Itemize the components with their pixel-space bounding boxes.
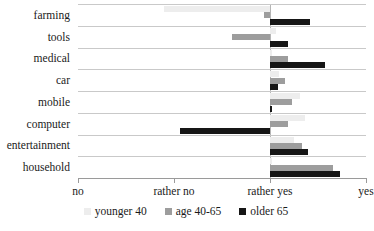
bar-household-younger-40 xyxy=(270,158,272,164)
older-swatch-icon xyxy=(239,208,246,215)
gridline xyxy=(78,113,366,114)
gridline xyxy=(78,48,366,49)
category-label-tools: tools xyxy=(48,31,70,43)
legend-label: younger 40 xyxy=(95,205,147,217)
bar-household-older-65 xyxy=(270,171,340,177)
gridline xyxy=(78,91,366,92)
x-tick-yes xyxy=(366,178,367,183)
legend-label: age 40-65 xyxy=(176,205,222,217)
x-tick-label-no: no xyxy=(72,185,84,198)
younger-swatch-icon xyxy=(84,208,91,215)
middle-swatch-icon xyxy=(165,208,172,215)
category-label-farming: farming xyxy=(34,9,70,21)
bar-tools-younger-40 xyxy=(270,28,276,34)
gridline xyxy=(78,156,366,157)
bar-tools-older-65 xyxy=(270,41,288,47)
x-axis-line xyxy=(78,178,366,179)
gridline xyxy=(78,26,366,27)
bar-computer-age-40-65 xyxy=(270,121,288,127)
x-tick-label-rather yes: rather yes xyxy=(247,185,292,198)
bar-farming-age-40-65 xyxy=(264,12,270,18)
category-label-medical: medical xyxy=(34,52,70,64)
legend-item-younger-40[interactable]: younger 40 xyxy=(84,205,147,217)
bar-tools-age-40-65 xyxy=(232,34,270,40)
category-label-mobile: mobile xyxy=(38,96,70,108)
category-label-household: household xyxy=(23,161,70,173)
gridline xyxy=(78,4,366,5)
plot-area xyxy=(78,4,366,178)
bar-car-younger-40 xyxy=(270,71,279,77)
bar-car-older-65 xyxy=(270,84,278,90)
x-tick-no xyxy=(78,178,79,183)
bar-farming-younger-40 xyxy=(164,6,270,12)
gridline xyxy=(78,69,366,70)
legend-item-older-65[interactable]: older 65 xyxy=(239,205,288,217)
chart-legend: younger 40age 40-65older 65 xyxy=(0,205,372,217)
x-tick-rather no xyxy=(174,178,175,183)
bar-entertainment-older-65 xyxy=(270,149,308,155)
bar-mobile-age-40-65 xyxy=(270,99,292,105)
x-tick-label-yes: yes xyxy=(358,185,373,198)
bar-farming-older-65 xyxy=(270,19,310,25)
bar-medical-older-65 xyxy=(270,62,325,68)
x-tick-rather yes xyxy=(270,178,271,183)
x-tick-label-rather no: rather no xyxy=(153,185,194,198)
bar-computer-older-65 xyxy=(180,128,270,134)
category-axis-labels: farmingtoolsmedicalcarmobilecomputerente… xyxy=(0,4,74,178)
legend-label: older 65 xyxy=(250,205,288,217)
category-label-entertainment: entertainment xyxy=(7,139,70,151)
legend-item-age-40-65[interactable]: age 40-65 xyxy=(165,205,222,217)
category-label-computer: computer xyxy=(27,118,70,130)
gridline xyxy=(78,135,366,136)
category-label-car: car xyxy=(56,74,70,86)
bar-mobile-older-65 xyxy=(270,106,272,112)
